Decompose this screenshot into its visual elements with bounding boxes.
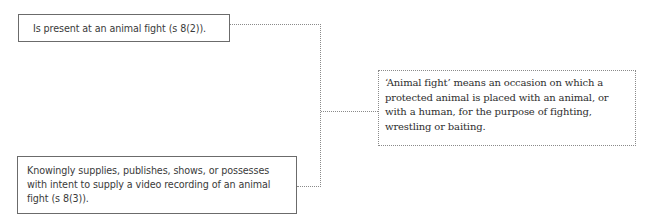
connector-top-horizontal	[230, 24, 321, 25]
definition-box: ‘Animal fight’ means an occasion on whic…	[378, 70, 636, 146]
offence-text-present: Is present at an animal fight (s 8(2)).	[33, 23, 206, 34]
connector-bottom-horizontal	[297, 186, 321, 187]
connector-vertical	[320, 24, 321, 187]
offence-box-present: Is present at an animal fight (s 8(2)).	[18, 14, 230, 42]
definition-text: ‘Animal fight’ means an occasion on whic…	[385, 77, 608, 132]
offence-text-video: Knowingly supplies, publishes, shows, or…	[27, 165, 270, 204]
connector-definition-horizontal	[321, 111, 378, 112]
offence-box-video: Knowingly supplies, publishes, shows, or…	[17, 156, 297, 214]
